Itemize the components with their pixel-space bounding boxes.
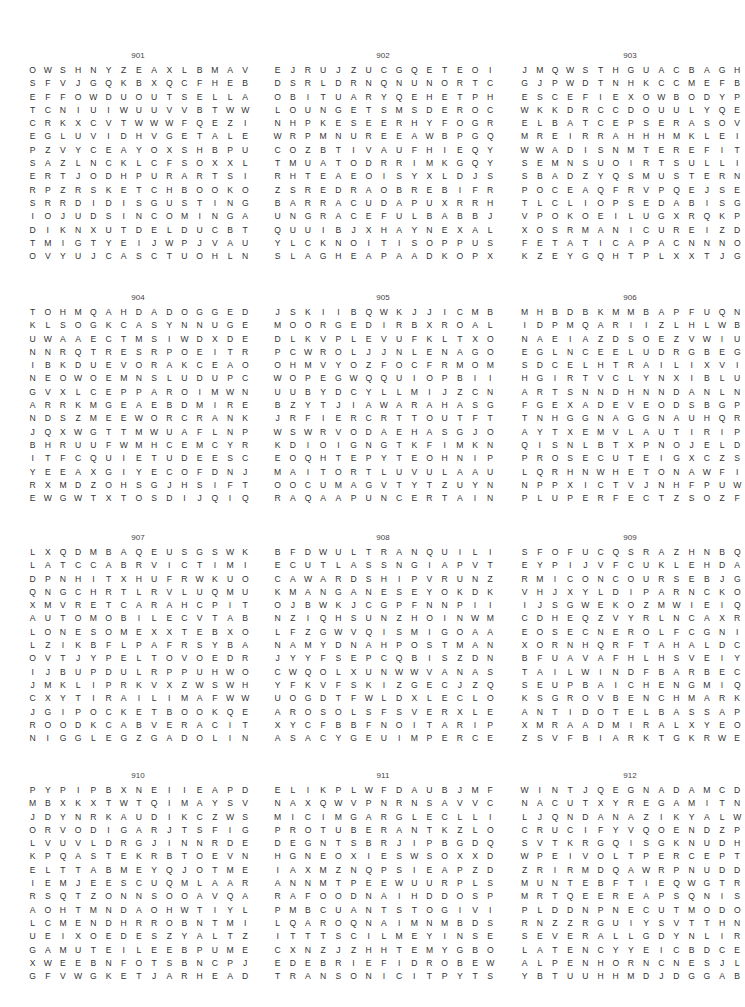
grid-letter: N: [376, 492, 391, 505]
grid-letter: D: [162, 492, 177, 505]
grid-letter: I: [207, 559, 222, 572]
grid-letter: E: [101, 359, 116, 372]
grid-letter: B: [131, 719, 146, 732]
grid-letter: A: [437, 797, 452, 810]
grid-letter: T: [331, 837, 346, 850]
grid-letter: T: [623, 452, 638, 465]
grid-letter: K: [25, 319, 40, 332]
grid-letter: Q: [270, 224, 285, 237]
grid-letter: J: [25, 426, 40, 439]
grid-letter: V: [376, 479, 391, 492]
grid-letter: Y: [270, 679, 285, 692]
grid-letter: R: [71, 599, 86, 612]
grid-letter: N: [222, 412, 237, 425]
grid-letter: S: [131, 479, 146, 492]
grid-letter: B: [331, 224, 346, 237]
grid-letter: B: [207, 144, 222, 157]
grid-letter: B: [331, 719, 346, 732]
grid-letter: M: [669, 130, 684, 143]
grid-letter: B: [101, 546, 116, 559]
grid-letter: W: [699, 466, 714, 479]
grid-letter: B: [578, 732, 593, 745]
grid-letter: V: [517, 210, 532, 223]
grid-letter: K: [71, 797, 86, 810]
grid-letter: H: [192, 970, 207, 983]
grid-letter: P: [407, 573, 422, 586]
grid-letter: U: [654, 170, 669, 183]
grid-letter: M: [192, 439, 207, 452]
grid-letter: T: [331, 877, 346, 890]
grid-letter: U: [422, 877, 437, 890]
puzzle-number: 908: [263, 532, 503, 544]
grid-letter: A: [422, 399, 437, 412]
grid-letter: S: [639, 837, 654, 850]
grid-letter: J: [452, 679, 467, 692]
grid-letter: I: [730, 359, 745, 372]
grid-letter: O: [392, 359, 407, 372]
grid-letter: S: [222, 170, 237, 183]
grid-letter: I: [162, 811, 177, 824]
grid-letter: O: [71, 824, 86, 837]
grid-letter: L: [623, 346, 638, 359]
grid-letter: X: [40, 546, 55, 559]
grid-letter: R: [684, 666, 699, 679]
grid-letter: L: [699, 930, 714, 943]
grid-letter: L: [669, 319, 684, 332]
grid-letter: H: [654, 652, 669, 665]
grid-letter: P: [483, 890, 498, 903]
grid-letter: I: [207, 479, 222, 492]
grid-letter: S: [407, 104, 422, 117]
grid-letter: P: [563, 679, 578, 692]
grid-letter: T: [714, 797, 729, 810]
grid-letter: B: [116, 559, 131, 572]
grid-letter: C: [654, 692, 669, 705]
grid-letter: O: [131, 91, 146, 104]
grid-letter: S: [147, 372, 162, 385]
grid-letter: T: [86, 237, 101, 250]
puzzle-number: 901: [18, 50, 258, 62]
grid-letter: H: [684, 546, 699, 559]
grid-letter: P: [452, 864, 467, 877]
grid-letter: X: [207, 157, 222, 170]
grid-letter: A: [40, 559, 55, 572]
grid-letter: D: [730, 864, 745, 877]
grid-letter: V: [467, 797, 482, 810]
grid-letter: A: [407, 784, 422, 797]
grid-letter: X: [669, 250, 684, 263]
grid-letter: V: [684, 652, 699, 665]
grid-letter: E: [346, 319, 361, 332]
grid-letter: E: [437, 91, 452, 104]
grid-letter: Z: [714, 824, 729, 837]
grid-letter: E: [578, 890, 593, 903]
grid-letter: L: [316, 77, 331, 90]
grid-letter: D: [483, 864, 498, 877]
grid-letter: E: [131, 864, 146, 877]
grid-letter: J: [483, 210, 498, 223]
grid-letter: D: [714, 559, 729, 572]
grid-letter: H: [547, 612, 562, 625]
grid-letter: W: [71, 970, 86, 983]
grid-letter: P: [437, 237, 452, 250]
grid-letter: E: [684, 224, 699, 237]
grid-letter: S: [25, 77, 40, 90]
grid-letter: E: [730, 184, 745, 197]
grid-letter: L: [608, 850, 623, 863]
grid-letter: H: [593, 359, 608, 372]
grid-letter: H: [422, 144, 437, 157]
grid-letter: R: [300, 64, 315, 77]
grid-letter: J: [361, 346, 376, 359]
grid-letter: V: [40, 386, 55, 399]
grid-letter: L: [376, 386, 391, 399]
grid-letter: Q: [593, 639, 608, 652]
grid-letter: R: [376, 837, 391, 850]
grid-letter: Q: [192, 117, 207, 130]
grid-letter: T: [71, 904, 86, 917]
grid-letter: E: [407, 492, 422, 505]
grid-letter: W: [316, 546, 331, 559]
grid-letter: K: [101, 970, 116, 983]
grid-letter: U: [192, 224, 207, 237]
grid-letter: R: [483, 184, 498, 197]
grid-letter: J: [467, 170, 482, 183]
grid-letter: N: [361, 77, 376, 90]
grid-letter: R: [147, 917, 162, 930]
